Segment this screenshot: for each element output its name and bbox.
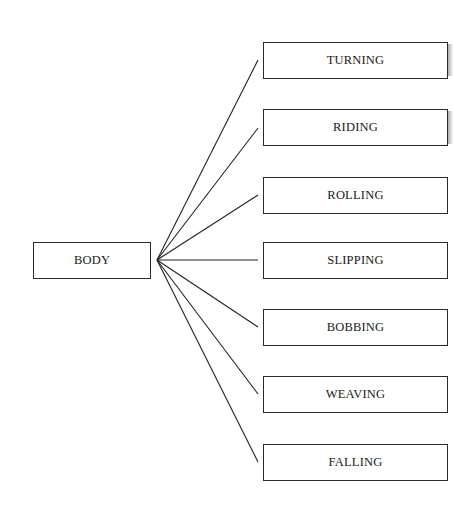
connector-bobbing: [157, 260, 258, 327]
root-node-body: BODY: [33, 242, 151, 279]
child-node-label: WEAVING: [326, 387, 386, 402]
child-node-label: BOBBING: [327, 320, 385, 335]
connector-turning: [157, 60, 258, 260]
child-node-label: TURNING: [327, 53, 385, 68]
connector-riding: [157, 128, 258, 260]
child-node-turning: TURNING: [263, 42, 448, 79]
child-node-bobbing: BOBBING: [263, 309, 448, 346]
child-node-riding: RIDING: [263, 109, 448, 146]
child-node-weaving: WEAVING: [263, 376, 448, 413]
child-node-label: RIDING: [333, 120, 378, 135]
child-node-label: SLIPPING: [327, 253, 383, 268]
connector-falling: [157, 260, 258, 462]
root-node-label: BODY: [74, 253, 110, 268]
connector-weaving: [157, 260, 258, 394]
child-node-falling: FALLING: [263, 444, 448, 481]
connector-rolling: [157, 195, 258, 260]
child-node-label: ROLLING: [327, 188, 383, 203]
child-node-label: FALLING: [329, 455, 383, 470]
child-node-rolling: ROLLING: [263, 177, 448, 214]
child-node-slipping: SLIPPING: [263, 242, 448, 279]
